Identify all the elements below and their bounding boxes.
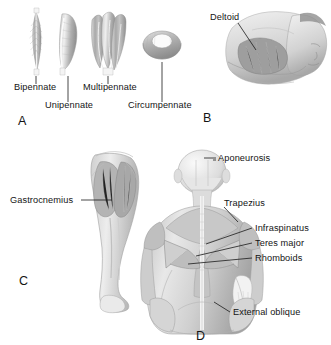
panel-letter-d: D [196, 329, 205, 343]
label-deltoid: Deltoid [210, 13, 239, 22]
multipennate-muscle-shape [91, 12, 126, 75]
panel-letter-a: A [18, 114, 27, 128]
bipennate-muscle-shape [30, 8, 43, 75]
anatomy-figure: Bipennate Unipennate Multipennate Circum… [0, 0, 331, 345]
label-teres-major: Teres major [255, 239, 304, 248]
label-bipennate: Bipennate [14, 83, 56, 92]
label-unipennate: Unipennate [45, 101, 93, 110]
label-multipennate: Multipennate [83, 83, 137, 92]
label-rhomboids: Rhomboids [255, 254, 302, 263]
label-trapezius: Trapezius [224, 199, 265, 208]
figure-artwork [0, 0, 331, 345]
label-infraspinatus: Infraspinatus [255, 224, 309, 233]
panel-letter-c: C [19, 274, 28, 288]
panel-letter-b: B [203, 111, 212, 125]
label-gastrocnemius: Gastrocnemius [10, 196, 73, 205]
label-circumpennate: Circumpennate [128, 101, 192, 110]
label-aponeurosis: Aponeurosis [218, 154, 270, 163]
panel-c-artwork [81, 152, 139, 313]
circumpennate-muscle-shape [143, 31, 181, 59]
panel-b-artwork [226, 12, 327, 85]
label-external-oblique: External oblique [233, 308, 301, 317]
unipennate-muscle-shape [59, 14, 76, 75]
